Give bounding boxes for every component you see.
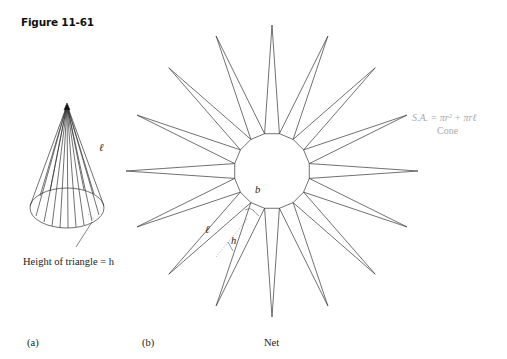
net-base-label: b xyxy=(255,184,260,195)
diagram-drawing xyxy=(0,0,507,359)
cone-net-drawing xyxy=(126,25,418,317)
net-height-label: h xyxy=(231,235,236,246)
panel-a-label: (a) xyxy=(27,337,39,348)
net-slant-label: ℓ xyxy=(205,224,209,235)
panel-b-label: (b) xyxy=(142,337,154,348)
figure-canvas: Figure 11-61 xyxy=(0,0,507,359)
triangle-height-caption: Height of triangle = h xyxy=(23,256,114,267)
cone-slant-label: ℓ xyxy=(99,142,103,153)
formula-caption: Cone xyxy=(437,125,458,136)
surface-area-formula: S.A. = πr² + πrℓ xyxy=(412,112,477,123)
cone-drawing xyxy=(30,103,104,247)
net-caption: Net xyxy=(264,337,279,348)
